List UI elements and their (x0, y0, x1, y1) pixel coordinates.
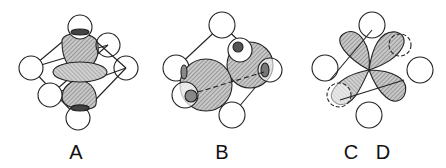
panel-b (163, 12, 282, 128)
label-b: B (210, 141, 240, 164)
label-a: A (64, 141, 94, 164)
panel-cde (312, 12, 433, 128)
label-cde: C D E (330, 141, 410, 168)
panel-a (19, 15, 138, 130)
